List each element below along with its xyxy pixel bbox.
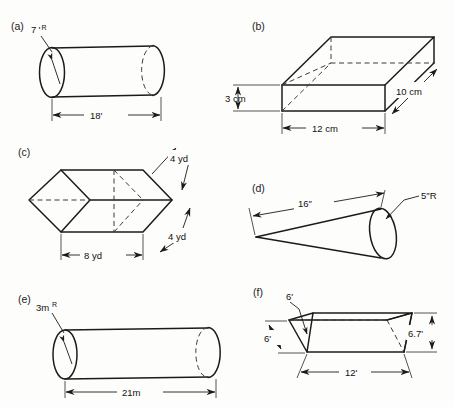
figure-b-height-label: 3 cm — [225, 93, 246, 104]
figure-c-width-label: 8 yd — [84, 250, 102, 261]
figure-a-radius-superscript: R — [42, 24, 47, 31]
figure-d-length-label: 16″ — [298, 198, 313, 209]
figure-f-height-label: 6.7' — [408, 328, 423, 339]
figure-f-length-label: 12' — [345, 367, 358, 378]
figure-e-label: (e) — [18, 293, 31, 305]
figure-c-bottom-edge-label: 4 yd — [168, 231, 186, 242]
figure-c-top-edge-label: 4 yd — [170, 153, 188, 164]
figure-e-radius-value: 3m — [36, 302, 49, 313]
figure-c-label: (c) — [18, 146, 30, 158]
figure-a-radius-unit: ' — [39, 24, 41, 35]
figure-a-radius-value: 7 — [31, 24, 36, 35]
figure-a-length-label: 18' — [90, 110, 103, 121]
figure-f-label: (f) — [253, 286, 263, 298]
figure-b-box: (b) 3 cm 10 cm — [225, 20, 443, 136]
figure-b-width-label: 12 cm — [312, 123, 338, 134]
figure-b-depth-label: 10 cm — [396, 86, 422, 97]
figure-b-label: (b) — [252, 20, 265, 32]
figure-f-triangular-prism: (f) 6' 6' — [253, 286, 437, 380]
figure-e-length-label: 21m — [122, 387, 141, 398]
figure-f-top-edge-label: 6' — [286, 291, 293, 302]
figure-d-cone: (d) 16″ 5″R — [249, 182, 437, 261]
figure-d-radius-label: 5″R — [421, 190, 437, 201]
figure-e-radius-superscript: R — [52, 301, 57, 308]
figure-e-cylinder: (e) 3m R 21m — [18, 293, 220, 400]
figure-c-hexagonal-prism: (c) 4 yd 4 yd — [18, 146, 204, 263]
figure-a-label: (a) — [11, 20, 24, 32]
worksheet-sheet: (a) 7 ' R 18' (b) — [0, 0, 454, 407]
figure-a-cylinder: (a) 7 ' R 18' — [11, 20, 164, 123]
figure-f-left-edge-label: 6' — [264, 333, 271, 344]
figure-d-label: (d) — [252, 182, 265, 194]
